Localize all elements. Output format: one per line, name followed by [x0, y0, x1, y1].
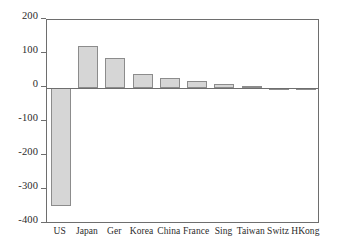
- x-axis-label-korea: Korea: [130, 226, 153, 237]
- y-axis: 2001000-100-200-300-400: [0, 0, 46, 249]
- y-tick-label: 0: [33, 79, 38, 90]
- bar-ger: [105, 58, 125, 88]
- x-axis-label-us: US: [54, 226, 66, 237]
- bar-chart: 2001000-100-200-300-400 USJapanGerKoreaC…: [0, 0, 338, 249]
- x-axis-label-france: France: [183, 226, 209, 237]
- x-axis: USJapanGerKoreaChinaFranceSingTaiwanSwit…: [46, 226, 319, 242]
- x-axis-label-china: China: [157, 226, 180, 237]
- x-axis-label-sing: Sing: [215, 226, 233, 237]
- plot-area: [46, 19, 319, 223]
- bar-japan: [78, 46, 98, 89]
- bar-france: [187, 81, 207, 88]
- x-axis-label-switz: Switz: [267, 226, 289, 237]
- zero-baseline: [47, 88, 318, 89]
- bars-layer: [47, 20, 318, 222]
- bar-china: [160, 78, 180, 88]
- y-tick-label: -100: [18, 113, 38, 124]
- y-tick-label: -400: [18, 215, 38, 226]
- x-axis-label-ger: Ger: [107, 226, 121, 237]
- y-tick-label: -200: [18, 147, 38, 158]
- y-tick-label: -300: [18, 181, 38, 192]
- x-axis-label-japan: Japan: [76, 226, 98, 237]
- y-tick-label: 100: [22, 45, 38, 56]
- y-tick-label: 200: [22, 11, 38, 22]
- x-axis-label-taiwan: Taiwan: [237, 226, 265, 237]
- x-axis-label-hkong: HKong: [291, 226, 319, 237]
- bar-korea: [133, 74, 153, 88]
- bar-us: [51, 88, 71, 206]
